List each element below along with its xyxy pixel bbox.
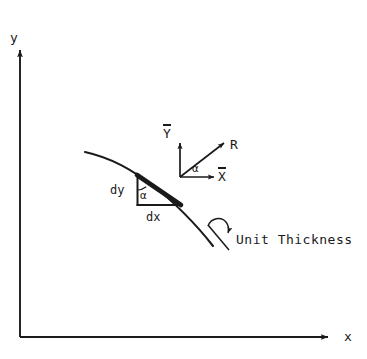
x-axis-label: x (344, 330, 352, 343)
diagram-canvas: y x Y X R α α dy dx Unit Thickness (0, 0, 367, 359)
resultant-label: R (230, 138, 238, 151)
x-bar-overline (218, 167, 226, 169)
dx-label: dx (146, 211, 160, 223)
local-y-axis-label: Y (163, 127, 171, 140)
alpha-label-origin: α (192, 163, 199, 174)
local-x-axis-label: X (218, 170, 226, 183)
unit-thickness-label: Unit Thickness (236, 233, 353, 246)
y-axis-label: y (10, 31, 18, 44)
dy-label: dy (110, 184, 124, 196)
alpha-label-element: α (140, 190, 147, 201)
y-bar-overline (163, 124, 171, 126)
unit-thickness-leader-line (208, 225, 229, 250)
unit-thickness-hook (208, 219, 229, 233)
diagram-vector-layer (0, 0, 367, 359)
